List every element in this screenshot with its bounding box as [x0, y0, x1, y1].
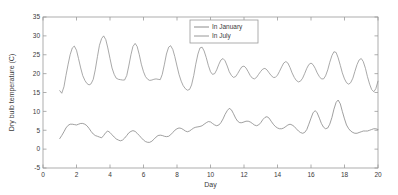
y-axis-title: Dry bulb temperature (C) — [8, 54, 16, 131]
y-tick-label-5: 20 — [33, 70, 41, 77]
x-tick-label-3: 6 — [142, 171, 146, 178]
y-tick-label-1: 0 — [36, 145, 40, 152]
y-tick-label-8: 35 — [33, 13, 41, 20]
y-tick-label-0: -5 — [34, 164, 40, 171]
x-tick-label-5: 10 — [207, 171, 215, 178]
x-axis-title: Day — [204, 181, 217, 189]
x-tick-label-9: 18 — [341, 171, 349, 178]
y-tick-label-6: 25 — [33, 51, 41, 58]
x-tick-label-6: 12 — [240, 171, 248, 178]
x-tick-label-8: 16 — [307, 171, 315, 178]
chart-legend: In JanuaryIn July — [190, 20, 258, 43]
x-tick-label-2: 4 — [108, 171, 112, 178]
legend-label-0: In January — [212, 23, 243, 31]
y-tick-label-7: 30 — [33, 32, 41, 39]
y-tick-label-4: 15 — [33, 89, 41, 96]
legend-label-1: In July — [212, 32, 232, 40]
x-tick-label-4: 8 — [175, 171, 179, 178]
chart-canvas: 02468101214161820-505101520253035 DayDry… — [0, 0, 398, 195]
x-tick-label-7: 14 — [274, 171, 282, 178]
x-tick-label-10: 20 — [374, 171, 382, 178]
y-tick-label-2: 5 — [36, 127, 40, 134]
x-tick-label-1: 2 — [75, 171, 79, 178]
x-tick-label-0: 0 — [41, 171, 45, 178]
y-tick-label-3: 10 — [33, 108, 41, 115]
chart-figure: 02468101214161820-505101520253035 DayDry… — [0, 0, 398, 195]
